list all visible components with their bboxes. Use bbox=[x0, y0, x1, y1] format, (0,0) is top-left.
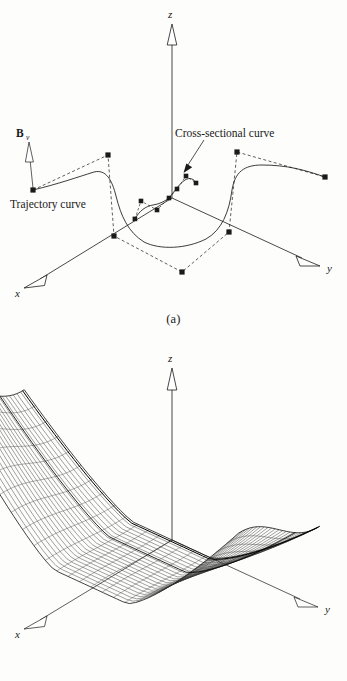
x-axis-label: x bbox=[14, 628, 20, 640]
x-axis bbox=[24, 198, 172, 288]
y-axis-label: y bbox=[324, 603, 330, 615]
boundary-vector-arrow bbox=[25, 142, 33, 188]
trajectory-curve-label: Trajectory curve bbox=[10, 198, 86, 211]
figure-container: z x y B v Trajectory curve Cross-section… bbox=[0, 0, 347, 681]
cross-section-curve-right bbox=[169, 174, 198, 198]
cross-sectional-curve-leader bbox=[184, 140, 205, 173]
cross-section-curve-left bbox=[133, 196, 172, 222]
panel-a-diagram: z x y B v Trajectory curve Cross-section… bbox=[0, 0, 347, 312]
panel-b: z x y (b) bbox=[0, 340, 347, 681]
trajectory-control-points bbox=[30, 149, 327, 274]
z-axis bbox=[167, 368, 177, 540]
z-axis bbox=[167, 24, 177, 198]
trajectory-control-polygon bbox=[33, 152, 325, 272]
y-axis bbox=[172, 198, 320, 266]
panel-a-caption: (a) bbox=[0, 312, 347, 327]
z-axis-label: z bbox=[167, 352, 173, 364]
cross-sectional-curve-label: Cross-sectional curve bbox=[175, 127, 274, 139]
panel-b-diagram: z x y bbox=[0, 340, 347, 655]
x-axis-label: x bbox=[14, 287, 20, 299]
z-axis-label: z bbox=[167, 8, 173, 20]
boundary-vector-subscript: v bbox=[26, 133, 30, 142]
boundary-vector-label: B bbox=[16, 127, 24, 139]
y-axis-label: y bbox=[326, 262, 332, 274]
panel-a: z x y B v Trajectory curve Cross-section… bbox=[0, 0, 347, 340]
